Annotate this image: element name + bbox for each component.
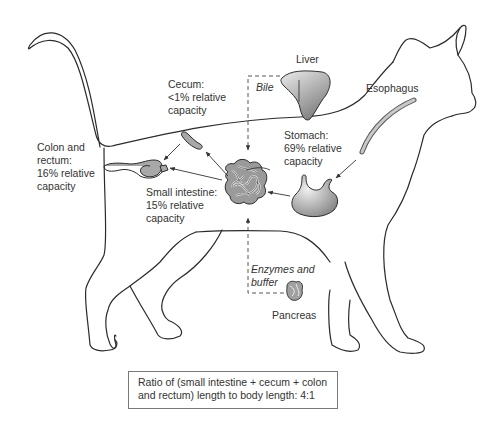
colon-rectum-organ: [104, 160, 168, 178]
stomach-label: Stomach: 69% relative capacity: [284, 129, 342, 168]
length-ratio-caption: Ratio of (small intestine + cecum + colo…: [128, 371, 338, 409]
liver-label: Liver: [296, 53, 319, 66]
pancreas-label: Pancreas: [272, 309, 316, 322]
bile-label: Bile: [256, 81, 274, 94]
esophagus-label: Esophagus: [366, 82, 419, 95]
cecum-label: Cecum: <1% relative capacity: [168, 78, 226, 117]
small-intestine-label: Small intestine: 15% relative capacity: [146, 186, 217, 225]
stomach-organ: [292, 175, 338, 217]
enzymes-buffer-label: Enzymes and buffer: [251, 263, 315, 289]
liver-organ: [281, 71, 330, 120]
cecum-organ: [181, 132, 202, 149]
colon-rectum-label: Colon and rectum: 16% relative capacity: [37, 141, 95, 193]
esophagus-organ: [362, 100, 414, 152]
cat-digestive-diagram: [0, 0, 480, 424]
small-intestine-organ: [225, 159, 270, 204]
